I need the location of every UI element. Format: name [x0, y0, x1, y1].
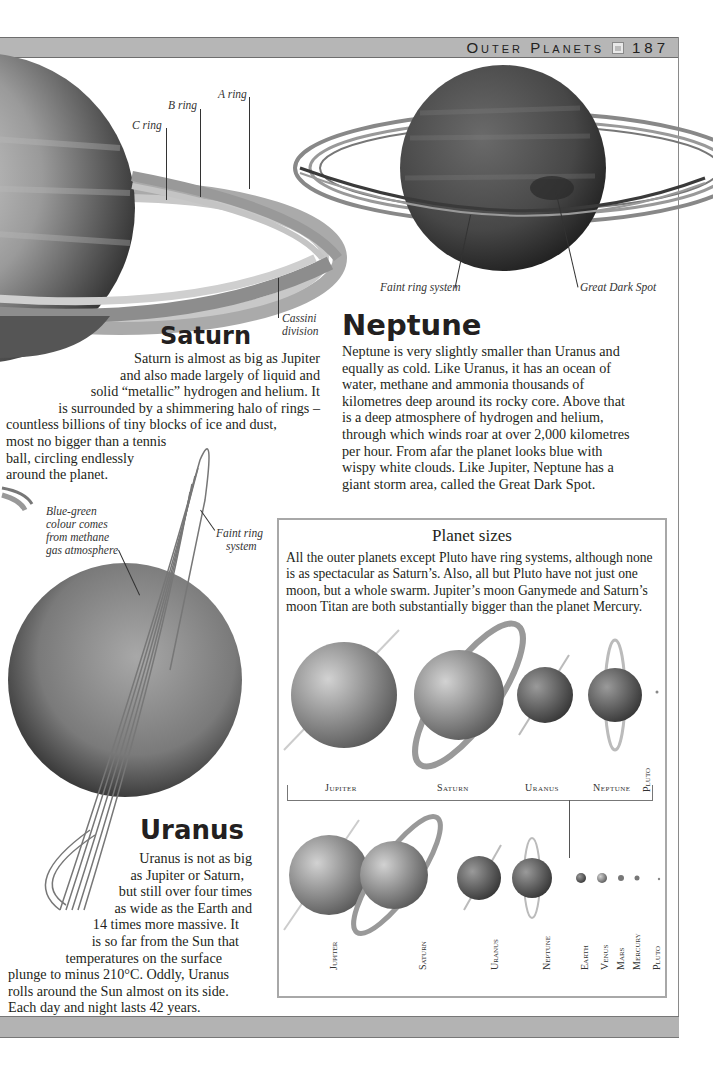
label-uranus: Uranus [525, 782, 559, 793]
text-line: moon Titan are both substantially bigger… [286, 599, 653, 615]
c-ring-leader [166, 128, 167, 200]
label-saturn: Saturn [437, 782, 469, 793]
neptune-body: Neptune is very slightly smaller than Ur… [342, 343, 672, 492]
blue-green-label-3: from methane [46, 531, 109, 544]
bracket-right [652, 785, 653, 801]
text-line: and also made largely of liquid and [0, 367, 320, 384]
cassini-label-1: Cassini [282, 312, 317, 325]
text-line: giant storm area, called the Great Dark … [342, 476, 672, 493]
label-pluto: Pluto [641, 768, 652, 792]
running-header: Outer Planets 187 [0, 37, 679, 58]
text-line: plunge to minus 210°C. Oddly, Uranus [0, 966, 252, 983]
outer-planets-row [279, 620, 669, 770]
uranus-faint-ring-label-2: system [226, 540, 257, 553]
planet-sizes-panel: Planet sizes All the outer planets excep… [277, 518, 667, 998]
label-jupiter: Jupiter [325, 782, 357, 793]
text-line: rolls around the Sun almost on its side. [0, 983, 252, 1000]
label-pluto-2: Pluto [651, 946, 662, 970]
b-ring-label: B ring [168, 99, 197, 112]
page-icon [612, 42, 624, 54]
label-earth: Earth [579, 945, 590, 970]
planet-sizes-text: All the outer planets except Pluto have … [286, 550, 653, 615]
neptune-illustration [290, 58, 713, 283]
blue-green-label-4: gas atmosphere [46, 544, 118, 557]
label-venus: Venus [599, 944, 610, 970]
neptune-heading: Neptune [342, 308, 482, 342]
text-line: Neptune is very slightly smaller than Ur… [342, 343, 672, 360]
running-head: Outer Planets 187 [466, 39, 669, 56]
text-line: Saturn is almost as big as Jupiter [0, 350, 320, 367]
c-ring-label: C ring [132, 119, 162, 132]
label-mars: Mars [615, 947, 626, 970]
a-ring-label: A ring [218, 88, 247, 101]
text-line: per hour. From afar the planet looks blu… [342, 443, 672, 460]
label-uranus-2: Uranus [489, 939, 500, 970]
label-saturn-2: Saturn [417, 941, 428, 970]
label-jupiter-2: Jupiter [328, 942, 339, 970]
cassini-leader [278, 278, 279, 318]
footer-band [0, 1016, 679, 1038]
chapter-title: Outer Planets [466, 39, 604, 56]
text-line: is so far from the Sun that [0, 933, 252, 950]
neptune-faint-ring-label: Faint ring system [380, 281, 461, 294]
blue-green-label-2: colour comes [46, 518, 108, 531]
page-number: 187 [632, 39, 669, 56]
text-line: as Jupiter or Saturn, [0, 867, 252, 884]
text-line: water, methane and ammonia thousands of [342, 376, 672, 393]
text-line: is surrounded by a shimmering halo of ri… [0, 400, 320, 417]
text-line: countless billions of tiny blocks of ice… [0, 416, 320, 433]
text-line: Uranus is not as big [0, 850, 252, 867]
text-line: equally as cold. Like Uranus, it has an … [342, 360, 672, 377]
bracket-left [287, 785, 288, 801]
text-line: is a deep atmosphere of hydrogen and hel… [342, 409, 672, 426]
uranus-heading: Uranus [140, 815, 244, 845]
text-line: but still over four times [0, 883, 252, 900]
great-dark-spot-label: Great Dark Spot [580, 281, 656, 294]
text-line: is as spectacular as Saturn’s. Also, all… [286, 566, 653, 582]
label-mercury: Mercury [631, 933, 642, 970]
text-line: temperatures on the surface [0, 950, 252, 967]
saturn-heading: Saturn [160, 322, 251, 350]
planet-sizes-title: Planet sizes [279, 526, 665, 546]
b-ring-leader [200, 109, 201, 197]
text-line: as wide as the Earth and [0, 900, 252, 917]
text-line: solid “metallic” hydrogen and helium. It [0, 383, 320, 400]
text-line: All the outer planets except Pluto have … [286, 550, 653, 566]
cassini-label-2: division [282, 325, 318, 338]
text-line: through which winds roar at over 2,000 k… [342, 426, 672, 443]
uranus-faint-ring-label-1: Faint ring [216, 527, 263, 540]
bracket-line [287, 800, 653, 801]
uranus-body: Uranus is not as big as Jupiter or Satur… [0, 850, 252, 1016]
text-line: moon, but a whole swarm. Jupiter’s moon … [286, 583, 653, 599]
text-line: kilometres deep around its rocky core. A… [342, 393, 672, 410]
label-neptune: Neptune [593, 782, 631, 793]
a-ring-leader [249, 97, 250, 189]
blue-green-label-1: Blue-green [46, 505, 97, 518]
all-planets-row [279, 815, 669, 935]
label-neptune-2: Neptune [541, 936, 552, 970]
text-line: Each day and night lasts 42 years. [0, 999, 252, 1016]
text-line: wispy white clouds. Like Jupiter, Neptun… [342, 459, 672, 476]
text-line: 14 times more massive. It [0, 916, 252, 933]
